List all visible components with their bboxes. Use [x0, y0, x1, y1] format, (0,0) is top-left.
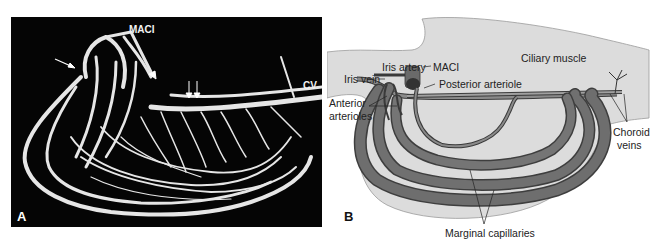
label-ciliary-muscle: Ciliary muscle — [521, 52, 586, 64]
panel-a-micrograph: MACI CV A — [11, 17, 322, 227]
label-choroid-veins-2: veins — [617, 139, 642, 151]
label-anterior-arterioles-1: Anterior — [329, 97, 366, 109]
label-maci-a: MACI — [129, 24, 155, 35]
label-cv: CV — [303, 80, 317, 91]
panel-letter-a: A — [17, 209, 26, 224]
panel-b-schematic: Ciliary muscle Iris artery MACI Iris vei… — [327, 0, 657, 248]
label-posterior-arteriole: Posterior arteriole — [439, 78, 522, 90]
label-iris-vein: Iris vein — [344, 73, 380, 85]
label-maci-b: MACI — [433, 61, 459, 73]
ciliary-vasculature-diagram — [327, 0, 657, 248]
label-marginal-capillaries: Marginal capillaries — [445, 227, 535, 239]
label-iris-artery: Iris artery — [382, 61, 426, 73]
label-choroid-veins-1: Choroid — [613, 126, 650, 138]
vascular-cast-image — [11, 17, 322, 227]
panel-letter-b: B — [344, 209, 353, 224]
label-anterior-arterioles-2: arterioles — [329, 110, 372, 122]
